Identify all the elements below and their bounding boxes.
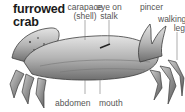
- label-walking-leg: walking leg: [158, 15, 185, 33]
- label-eye-on-stalk: eye on stalk: [93, 3, 125, 21]
- label-pincer: pincer: [140, 3, 163, 12]
- right-legs: [150, 60, 184, 104]
- label-mouth: mouth: [99, 99, 123, 108]
- label-abdomen: abdomen: [55, 99, 90, 108]
